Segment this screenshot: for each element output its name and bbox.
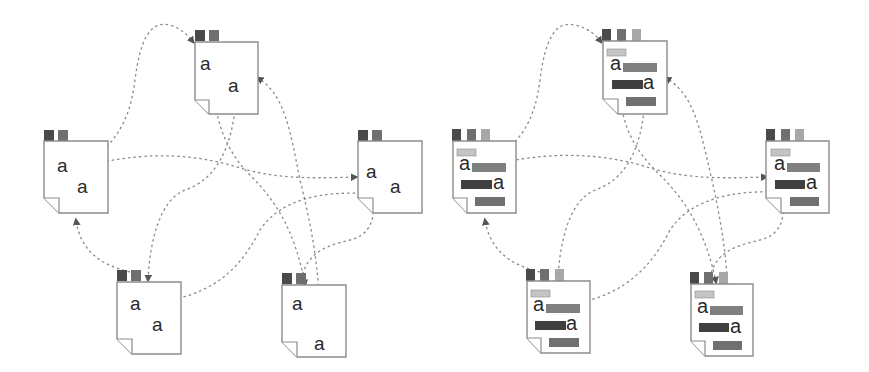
page-fold [117,339,132,354]
glyph-a: a [366,161,377,182]
tab-mid [58,130,68,141]
right-graph: a a a a a [452,24,829,356]
tab-dark [526,269,535,281]
bar-mid [626,97,656,106]
page-fold [44,198,59,213]
glyph-a: a [806,171,818,193]
glyph-a: a [643,71,655,93]
document-node-l-bottom-left[interactable]: a a [117,270,181,354]
glyph-a: a [57,155,68,176]
tab-dark [766,129,775,141]
glyph-a: a [566,312,578,334]
bar-mid [549,338,579,347]
edge [300,200,373,285]
glyph-a: a [130,293,141,314]
glyph-a: a [314,333,325,354]
tab-dark [602,29,611,41]
tab-dark [452,129,461,141]
bar-mid [790,197,819,206]
glyph-a: a [493,171,505,193]
document-node-r-bottom-left[interactable]: a a [526,269,590,353]
glyph-a: a [228,75,239,96]
tab-light [795,129,804,141]
glyph-a: a [697,295,709,317]
tab-dark [358,130,368,141]
document-node-r-right[interactable]: a a [766,129,829,213]
edge [620,93,716,282]
bar-dark [775,180,805,189]
document-node-r-top[interactable]: a a [602,29,667,114]
tab-mid [209,30,219,41]
glyph-a: a [533,293,545,315]
tab-dark [195,30,205,41]
tab-mid [540,269,549,281]
tab-dark [690,272,699,284]
glyph-a: a [774,152,786,174]
page-fold [282,342,297,357]
glyph-a: a [77,176,88,197]
edge [558,110,644,278]
document-node-l-bottom-right[interactable]: a a [282,273,346,357]
bar-mid [713,341,742,350]
tab-light [632,29,641,41]
tab-light [481,129,490,141]
glyph-a: a [730,315,742,337]
bar-mid [475,197,505,206]
document-node-l-top[interactable]: a a [195,30,258,114]
bar-dark [699,323,729,332]
tab-mid [372,130,382,141]
tab-mid [781,129,790,141]
page-fold [766,198,781,213]
edge [76,220,130,272]
tab-mid [131,270,141,281]
bar-dark [612,80,643,89]
left-graph: a a a a a a a a [44,24,422,357]
glyph-a: a [390,176,401,197]
edge [485,220,540,272]
edge [148,100,236,280]
bar-dark [535,321,566,330]
page-fold [358,198,373,213]
diagram-canvas: a a a a a a a a [0,0,869,372]
glyph-a: a [610,52,622,74]
glyph-a: a [200,53,211,74]
tab-mid [467,129,476,141]
edge [90,156,356,178]
document-node-r-left[interactable]: a a [452,129,516,213]
document-node-l-left[interactable]: a a [44,130,108,213]
edge [500,155,766,177]
glyph-a: a [459,152,471,174]
bar-mid [710,306,743,315]
document-node-r-bottom-right[interactable]: a a [690,272,753,356]
tab-light [555,269,564,281]
glyph-a: a [292,293,303,314]
document-node-l-right[interactable]: a a [358,130,422,213]
glyph-a: a [152,314,163,335]
tab-dark [282,273,292,284]
edge [710,200,783,278]
tab-mid [617,29,626,41]
tab-mid [704,272,713,284]
page-fold [603,99,618,114]
tab-light [719,272,728,284]
tab-dark [117,270,127,281]
tab-dark [44,130,54,141]
tab-mid [296,273,306,284]
bar-dark [461,180,492,189]
